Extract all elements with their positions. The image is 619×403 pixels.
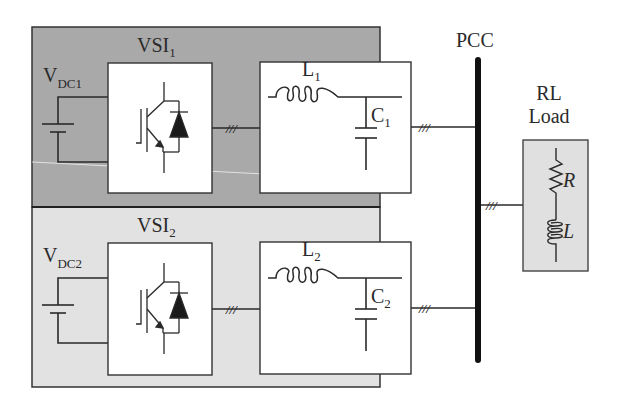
microgrid-diagram: VSI1 VDC1 /// [0, 0, 619, 403]
three-phase-mark: /// [485, 198, 498, 213]
three-phase-mark: /// [225, 302, 238, 317]
inverter-box-2 [108, 243, 212, 375]
three-phase-mark: /// [225, 121, 238, 136]
three-phase-mark: /// [418, 301, 431, 316]
resistor-label: R [562, 169, 575, 191]
load-inductor-label: L [562, 220, 574, 242]
pcc-bus: PCC [456, 29, 494, 360]
vsi1-panel: VSI1 VDC1 /// [32, 27, 478, 207]
load-title-line2: Load [528, 105, 569, 127]
vsi2-panel: VSI2 VDC2 /// L2 [32, 207, 478, 387]
three-phase-mark: /// [418, 120, 431, 135]
load-title-line1: RL [536, 82, 562, 104]
pcc-label: PCC [456, 29, 494, 51]
inverter-box-1 [108, 63, 212, 193]
rl-load: RL Load /// R L [481, 82, 588, 271]
